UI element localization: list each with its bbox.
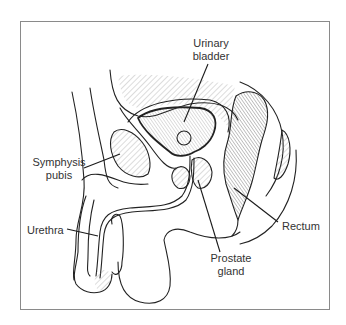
leader-urethra xyxy=(67,229,98,236)
penis-inner-line xyxy=(88,200,95,276)
label-rectum: Rectum xyxy=(282,220,320,233)
label-urethra: Urethra xyxy=(27,224,64,237)
symphysis-pubis-shape xyxy=(111,130,150,177)
label-prostate-gland: Prostategland xyxy=(203,252,259,278)
leader-prostate-gland xyxy=(198,180,220,252)
testis-outline xyxy=(112,214,124,274)
urinary-bladder-shape xyxy=(138,107,215,155)
label-symphysis-pubis: Symphysispubis xyxy=(27,156,91,182)
glans xyxy=(95,270,112,290)
label-urinary-bladder: Urinarybladder xyxy=(186,37,236,63)
